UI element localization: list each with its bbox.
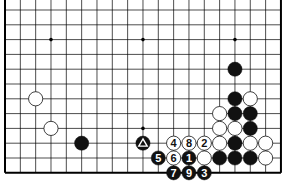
- black-stone: [228, 136, 242, 150]
- move-number: 3: [201, 167, 207, 179]
- star-point: [141, 38, 145, 42]
- stones-layer: 482561793: [29, 62, 273, 180]
- black-stone: 5: [151, 151, 165, 165]
- move-number: 2: [201, 137, 207, 149]
- white-stone: [29, 92, 43, 106]
- black-stone: [75, 136, 89, 150]
- move-number: 9: [186, 167, 192, 179]
- white-stone: [213, 121, 227, 135]
- black-stone: 3: [197, 166, 211, 180]
- black-stone: [136, 136, 150, 150]
- move-number: 1: [186, 152, 192, 164]
- black-stone: [228, 107, 242, 121]
- black-stone: 9: [182, 166, 196, 180]
- white-stone: [243, 92, 257, 106]
- star-point: [141, 127, 145, 131]
- move-number: 4: [171, 137, 178, 149]
- white-stone: [44, 121, 58, 135]
- white-stone: [259, 151, 273, 165]
- white-stone: 4: [167, 136, 181, 150]
- move-number: 8: [186, 137, 192, 149]
- black-stone: [213, 151, 227, 165]
- move-number: 5: [155, 152, 161, 164]
- white-stone: [197, 151, 211, 165]
- go-board-diagram: 482561793: [0, 0, 285, 187]
- star-point: [49, 38, 53, 42]
- star-point: [233, 38, 237, 42]
- black-stone: 1: [182, 151, 196, 165]
- white-stone: 2: [197, 136, 211, 150]
- white-stone: 8: [182, 136, 196, 150]
- white-stone: [213, 107, 227, 121]
- white-stone: [213, 136, 227, 150]
- black-stone: 7: [167, 166, 181, 180]
- move-number: 7: [171, 167, 177, 179]
- black-stone: [243, 107, 257, 121]
- white-stone: [228, 121, 242, 135]
- black-stone: [243, 151, 257, 165]
- black-stone: [228, 92, 242, 106]
- white-stone: 6: [167, 151, 181, 165]
- black-stone: [228, 62, 242, 76]
- move-number: 6: [171, 152, 177, 164]
- white-stone: [243, 136, 257, 150]
- black-stone: [228, 151, 242, 165]
- white-stone: [259, 136, 273, 150]
- black-stone: [243, 121, 257, 135]
